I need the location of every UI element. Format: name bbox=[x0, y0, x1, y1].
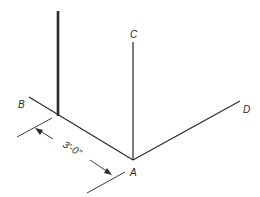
dimension-text: 3'-0" bbox=[61, 139, 84, 159]
dimension-arrow-right bbox=[90, 160, 108, 172]
extension-line-left bbox=[17, 118, 52, 137]
label-b: B bbox=[18, 99, 25, 110]
label-c: C bbox=[130, 29, 138, 40]
label-a: A bbox=[129, 167, 137, 178]
isometric-diagram: 3'-0" B A C D bbox=[0, 0, 260, 197]
line-a-d bbox=[133, 101, 240, 160]
arrowhead-left-icon bbox=[35, 128, 43, 135]
extension-line-right bbox=[87, 172, 125, 193]
arrowhead-right-icon bbox=[104, 168, 112, 175]
label-d: D bbox=[243, 104, 250, 115]
